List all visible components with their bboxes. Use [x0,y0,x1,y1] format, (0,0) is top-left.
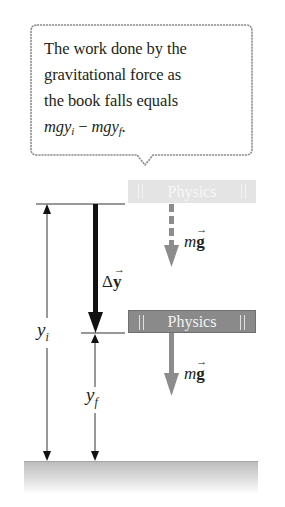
label-mg-final: m→g [184,364,205,384]
ground-surface [24,461,258,494]
displacement-arrow [88,204,103,333]
gravity-force-arrow-solid [164,333,179,396]
label-yf: yf [86,384,98,410]
gravity-force-arrow-dashed [164,204,179,267]
label-delta-y: Δ→y [102,272,121,292]
label-yi: yi [37,319,49,345]
diagram-lines [0,0,285,507]
label-mg-initial: m→g [184,232,205,252]
